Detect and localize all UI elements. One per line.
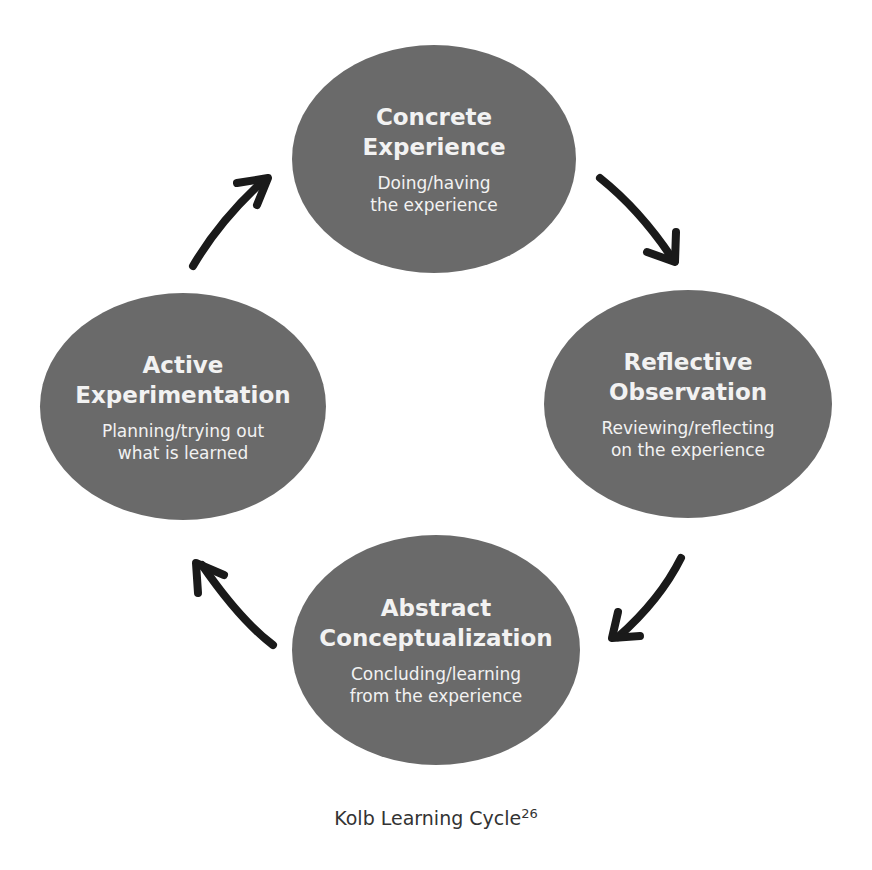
arrow-icon-active-to-concrete <box>193 178 268 266</box>
arrow-icon-abstract-to-active <box>196 563 273 645</box>
arrow-icon-reflective-to-abstract <box>612 558 681 638</box>
figure-caption: Kolb Learning Cycle26 <box>0 806 872 829</box>
arrow-icon-concrete-to-reflective <box>600 178 676 262</box>
cycle-arrows <box>0 0 872 870</box>
footnote-reference: 26 <box>521 806 538 821</box>
